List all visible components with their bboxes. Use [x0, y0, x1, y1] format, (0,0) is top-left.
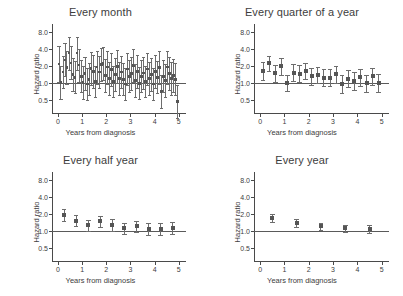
x-axis-tick: [357, 114, 358, 117]
error-bar-cap-lower: [110, 231, 115, 232]
y-axis-tick: [251, 214, 254, 215]
error-bar-cap-upper: [63, 43, 66, 44]
error-bar-cap-upper: [90, 52, 93, 53]
hazard-ratio-marker: [58, 63, 61, 66]
error-bar-cap-upper: [170, 222, 175, 223]
y-axis-tick-label: 4.0: [38, 45, 48, 52]
x-axis-label: Years from diagnosis: [201, 276, 403, 285]
error-bar-cap-lower: [279, 75, 284, 76]
x-axis-tick: [309, 262, 310, 265]
x-axis-label: Years from diagnosis: [0, 128, 201, 137]
error-bar-cap-upper: [158, 223, 163, 224]
x-axis-tick: [130, 262, 131, 265]
error-bar-cap-lower: [134, 97, 137, 98]
y-axis-tick-label: 4.0: [38, 193, 48, 200]
y-axis-tick-label: 8.0: [240, 176, 250, 183]
x-axis-tick: [382, 114, 383, 117]
error-bar-cap-lower: [316, 83, 321, 84]
error-bar-cap-upper: [291, 64, 296, 65]
error-bar-cap-lower: [94, 97, 97, 98]
hazard-ratio-marker: [270, 216, 274, 220]
error-bar-cap-upper: [334, 66, 339, 67]
hazard-ratio-marker: [74, 219, 78, 223]
x-axis-tick: [106, 114, 107, 117]
error-bar-cap-upper: [303, 63, 308, 64]
error-bar-cap-lower: [170, 95, 173, 96]
error-bar-cap-lower: [319, 230, 324, 231]
x-axis-tick-label: 2: [104, 118, 108, 125]
hazard-ratio-marker: [319, 224, 323, 228]
error-bar-cap-lower: [62, 88, 65, 89]
error-bar-cap-lower: [164, 97, 167, 98]
x-axis-tick-label: 2: [307, 266, 311, 273]
hazard-ratio-marker: [74, 76, 77, 79]
error-bar-cap-upper: [176, 85, 179, 86]
error-bar-cap-lower: [170, 234, 175, 235]
x-axis-tick: [58, 262, 59, 265]
y-axis-tick-label: 0.5: [38, 96, 48, 103]
y-axis-tick-label: 2.0: [38, 210, 48, 217]
error-bar-cap-upper: [279, 58, 284, 59]
error-bar-cap-lower: [108, 95, 111, 96]
error-bar-cap-upper: [71, 58, 74, 59]
x-axis-tick-label: 4: [153, 266, 157, 273]
error-bar-cap-upper: [328, 69, 333, 70]
error-bar-cap-lower: [358, 86, 363, 87]
y-axis-tick: [49, 248, 52, 249]
error-bar-cap-lower: [291, 81, 296, 82]
y-axis-label: Hazard ratio: [32, 54, 41, 95]
error-bar-cap-lower: [273, 82, 278, 83]
panel-title: Every half year: [0, 154, 201, 166]
hazard-ratio-marker: [334, 72, 338, 76]
y-axis-label: Hazard ratio: [32, 202, 41, 243]
x-axis-tick: [260, 262, 261, 265]
reference-line-hr-1: [52, 231, 186, 232]
panel-title: Every quarter of a year: [201, 6, 403, 18]
hazard-ratio-marker: [267, 61, 271, 65]
error-bar-cap-upper: [57, 46, 60, 47]
x-axis-tick: [179, 114, 180, 117]
error-bar-cap-lower: [146, 235, 151, 236]
x-axis-tick-label: 1: [282, 118, 286, 125]
error-bar-cap-upper: [168, 57, 171, 58]
error-bar-cap-lower: [124, 100, 127, 101]
panel-title: Every year: [201, 154, 403, 166]
hazard-ratio-marker: [261, 69, 265, 73]
x-axis-line: [254, 113, 389, 114]
error-bar-cap-upper: [367, 225, 372, 226]
error-bar-cap-upper: [62, 209, 67, 210]
error-bar-cap-lower: [128, 92, 131, 93]
error-bar-cap-upper: [340, 75, 345, 76]
error-bar-cap-upper: [122, 223, 127, 224]
hazard-ratio-marker: [174, 78, 177, 81]
x-axis-tick-label: 5: [380, 266, 384, 273]
error-bar-cap-lower: [328, 86, 333, 87]
y-axis-tick: [251, 100, 254, 101]
x-axis-label: Years from diagnosis: [0, 276, 201, 285]
x-axis-tick: [284, 114, 285, 117]
x-axis-tick-label: 2: [307, 118, 311, 125]
x-axis-tick-label: 3: [331, 118, 335, 125]
hazard-ratio-marker: [365, 81, 369, 85]
error-bar-cap-lower: [134, 232, 139, 233]
error-bar-cap-upper: [110, 219, 115, 220]
x-axis-tick-label: 4: [355, 266, 359, 273]
error-bar-cap-lower: [270, 222, 275, 223]
x-axis-tick-label: 5: [380, 118, 384, 125]
error-bar-cap-lower: [62, 221, 67, 222]
x-axis-tick-label: 1: [282, 266, 286, 273]
hazard-ratio-marker: [176, 100, 179, 103]
y-axis-tick-label: 0.5: [38, 244, 48, 251]
figure-panel-grid: Every month Hazard ratio 0.51.02.04.08.0…: [0, 0, 403, 296]
y-axis-tick-label: 0.5: [240, 244, 250, 251]
error-bar-cap-upper: [126, 53, 129, 54]
error-bar-cap-lower: [122, 234, 127, 235]
error-bar-cap-lower: [364, 92, 369, 93]
error-bar-cap-upper: [162, 60, 165, 61]
y-axis-tick: [49, 32, 52, 33]
x-axis-tick: [58, 114, 59, 117]
error-bar-cap-lower: [114, 91, 117, 92]
error-bar-cap-lower: [340, 93, 345, 94]
hazard-ratio-marker: [135, 224, 139, 228]
error-bar-cap-lower: [138, 99, 141, 100]
